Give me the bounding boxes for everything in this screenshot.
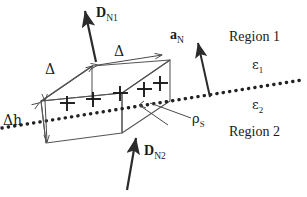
label-epsilon-1-symbol: ε [252, 57, 259, 72]
label-rho-s: ρS [192, 112, 205, 128]
label-d-n1-subscript: N1 [106, 13, 118, 23]
label-rho-s-symbol: ρ [192, 111, 200, 126]
label-d-n1-vector: D [96, 5, 106, 20]
charge-plus-4 [137, 82, 152, 97]
label-delta-h: Δh [3, 113, 22, 127]
label-d-n2-subscript: N2 [154, 151, 166, 161]
label-epsilon-2: ε2 [252, 98, 263, 114]
label-d-n2: DN2 [144, 144, 166, 161]
label-epsilon-1: ε1 [252, 58, 263, 74]
label-a-n: aN [170, 28, 184, 45]
label-region-2: Region 2 [229, 125, 280, 139]
physics-diagram-boundary-conditions: DN1 DN2 aN Δ Δ Δh ρS Region 1 Region 2 ε… [0, 0, 307, 197]
charge-plus-2 [86, 92, 101, 107]
label-d-n1: DN1 [96, 6, 118, 23]
charge-plus-1 [60, 96, 75, 111]
label-rho-s-subscript: S [200, 119, 205, 129]
label-epsilon-2-symbol: ε [252, 97, 259, 112]
label-epsilon-1-subscript: 1 [259, 65, 263, 75]
label-delta-top: Δ [114, 44, 124, 58]
label-d-n2-vector: D [144, 143, 154, 158]
charge-plus-5 [153, 76, 168, 91]
label-epsilon-2-subscript: 2 [259, 105, 263, 115]
label-a-n-vector: a [170, 27, 177, 42]
label-region-1: Region 1 [229, 30, 280, 44]
charge-plus-3 [113, 86, 128, 101]
label-delta-left: Δ [45, 62, 55, 76]
label-a-n-subscript: N [177, 35, 184, 45]
